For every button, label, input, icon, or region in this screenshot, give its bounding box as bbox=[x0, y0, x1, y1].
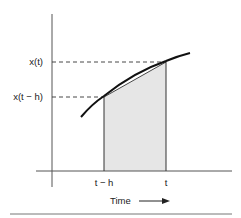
label-x-t: x(t) bbox=[29, 56, 43, 67]
time-arrow-icon bbox=[162, 198, 170, 204]
label-t: t bbox=[165, 177, 168, 188]
integration-diagram: x(t) x(t − h) t − h t Time bbox=[0, 0, 241, 218]
label-x-t-minus-h: x(t − h) bbox=[13, 91, 43, 102]
label-time: Time bbox=[110, 195, 131, 206]
shaded-region bbox=[104, 62, 166, 171]
label-t-minus-h: t − h bbox=[95, 177, 114, 188]
